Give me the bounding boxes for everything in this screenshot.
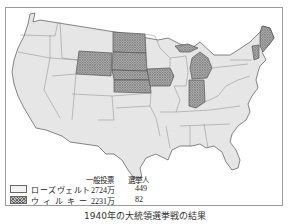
legend-row-roosevelt: ローズヴェルト 2724万 449: [10, 184, 150, 194]
state-north-dakota: [113, 32, 146, 53]
map-caption: 1940年の大統領選挙戦の結果: [0, 209, 290, 222]
state-indiana: [189, 80, 205, 108]
popular-vote-value: 2724万: [91, 184, 115, 195]
state-maine: [260, 26, 274, 52]
state-colorado: [76, 51, 112, 76]
state-iowa: [147, 68, 174, 86]
electoral-value: 82: [135, 195, 143, 204]
roosevelt-swatch-icon: [10, 185, 27, 193]
willkie-swatch-icon: [10, 196, 27, 204]
legend-row-willkie: ウィルキー 2231万 82: [10, 195, 150, 205]
electoral-value: 449: [135, 184, 147, 193]
popular-vote-value: 2231万: [91, 195, 115, 206]
legend: 一般投票 選挙人 ローズヴェルト 2724万 449 ウィルキー 2231万 8…: [10, 174, 150, 204]
legend-label: ローズヴェルト: [31, 184, 91, 195]
state-south-dakota: [112, 52, 147, 71]
state-kansas: [114, 80, 151, 93]
legend-label: ウィルキー: [31, 195, 91, 206]
state-nebraska: [112, 70, 150, 80]
